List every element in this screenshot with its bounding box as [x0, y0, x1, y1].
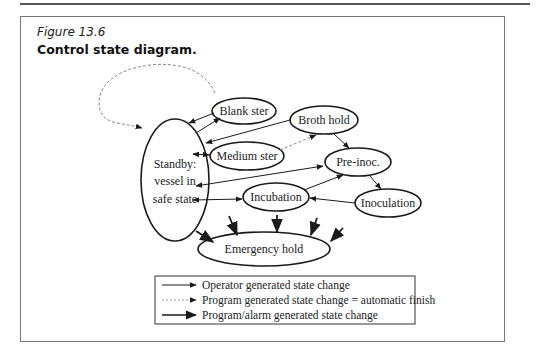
incubation-label: Incubation — [250, 190, 301, 204]
broth-hold-label: Broth hold — [298, 113, 350, 127]
edge-incubation-to-preinoc — [304, 175, 343, 190]
blank-ster-label: Blank ster — [220, 104, 269, 118]
node-inoculation: Inoculation — [355, 189, 421, 217]
node-emergency-hold: Emergency hold — [198, 232, 330, 266]
edge-broth-to-preinoc — [334, 134, 349, 148]
edge-medium-to-broth — [280, 135, 316, 150]
inoculation-label: Inoculation — [361, 196, 416, 210]
edge-standby-to-blank — [196, 118, 220, 133]
edge-preinoc-to-inoculation — [370, 176, 381, 189]
standby-label-1: Standby: — [154, 157, 197, 171]
node-blank-ster: Blank ster — [212, 98, 276, 124]
pre-inoc-label: Pre-inoc. — [336, 155, 380, 169]
standby-label-3: safe state — [153, 192, 197, 206]
alarm-arrow-5 — [331, 228, 343, 241]
node-medium-ster: Medium ster — [210, 142, 284, 170]
legend: Operator generated state change Program … — [155, 276, 435, 324]
legend-program-label: Program generated state change = automat… — [202, 294, 435, 307]
standby-label-2: vessel in — [154, 174, 196, 188]
emergency-hold-label: Emergency hold — [225, 242, 304, 256]
alarm-arrow-4 — [311, 218, 317, 235]
state-diagram: Standby: vessel in safe state Blank ster… — [0, 0, 547, 360]
alarm-arrow-1 — [196, 231, 213, 242]
edge-blank-to-standby — [189, 113, 214, 123]
edge-inoculation-to-incubation — [310, 198, 355, 203]
node-pre-inoc: Pre-inoc. — [325, 148, 391, 176]
medium-ster-label: Medium ster — [217, 149, 278, 163]
legend-alarm-label: Program/alarm generated state change — [202, 309, 378, 322]
node-standby: Standby: vessel in safe state — [141, 119, 209, 241]
node-broth-hold: Broth hold — [290, 106, 358, 134]
node-incubation: Incubation — [243, 183, 309, 211]
legend-operator-label: Operator generated state change — [202, 279, 350, 292]
alarm-arrow-2 — [229, 216, 237, 235]
edge-standby-self-loop — [99, 64, 215, 128]
